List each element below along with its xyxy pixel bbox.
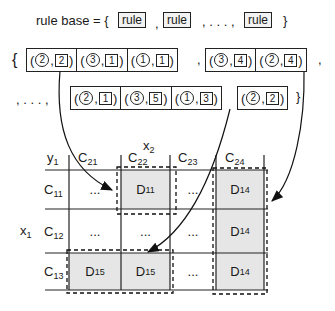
cell-r1-c3: ... bbox=[170, 170, 216, 209]
cell-r3-c3: ... bbox=[170, 253, 216, 290]
cell-r2-c3: ... bbox=[170, 209, 216, 253]
column-header-c22: C22 bbox=[128, 150, 147, 167]
cell-r1-c2: D11 bbox=[121, 170, 170, 209]
column-header-c21: C21 bbox=[78, 150, 97, 167]
cell-r2-c2: ... bbox=[121, 209, 170, 253]
column-header-c24: C24 bbox=[225, 150, 244, 167]
cell-r3-c2: D15 bbox=[121, 253, 170, 290]
column-header-c23: C23 bbox=[178, 150, 197, 167]
row-header-c12: C12 bbox=[44, 224, 63, 241]
x1-axis-label: x1 bbox=[20, 223, 32, 240]
cell-r1-c1: ... bbox=[69, 170, 121, 209]
cell-r1-c4: D14 bbox=[216, 170, 264, 209]
cell-r2-c1: ... bbox=[69, 209, 121, 253]
cell-r3-c4: D14 bbox=[216, 253, 264, 290]
cell-r2-c4: D14 bbox=[216, 209, 264, 253]
cell-r3-c1: D15 bbox=[69, 253, 121, 290]
row-header-c13: C13 bbox=[44, 264, 63, 281]
y1-axis-label: y1 bbox=[47, 150, 59, 167]
row-header-c11: C11 bbox=[44, 182, 63, 199]
